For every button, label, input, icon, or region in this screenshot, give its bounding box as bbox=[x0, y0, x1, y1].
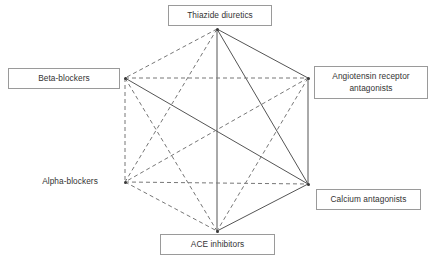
edge-layer bbox=[0, 0, 432, 261]
node-label-beta: Beta-blockers bbox=[8, 68, 120, 89]
node-label-alpha: Alpha-blockers bbox=[30, 174, 110, 190]
node-label-thiazide: Thiazide diuretics bbox=[168, 5, 272, 26]
edge-alpha-to-ace bbox=[125, 182, 217, 231]
edge-thiazide-to-beta bbox=[125, 29, 217, 78]
node-label-arb: Angiotensin receptor antagonists bbox=[314, 66, 428, 99]
vertex-dot-arb bbox=[307, 77, 310, 80]
vertex-dot-ace bbox=[216, 230, 219, 233]
node-label-text-arb: Angiotensin receptor antagonists bbox=[332, 71, 409, 94]
node-label-text-alpha: Alpha-blockers bbox=[42, 176, 98, 188]
vertex-dot-thiazide bbox=[216, 28, 219, 31]
node-label-calcium: Calcium antagonists bbox=[316, 189, 421, 210]
vertex-dot-beta bbox=[124, 77, 127, 80]
vertex-dot-alpha bbox=[124, 181, 127, 184]
node-label-ace: ACE inhibitors bbox=[160, 234, 275, 255]
edge-thiazide-to-calcium bbox=[217, 29, 308, 184]
edge-beta-to-ace bbox=[125, 78, 217, 231]
edge-thiazide-to-alpha bbox=[125, 29, 217, 182]
vertex-dot-calcium bbox=[307, 183, 310, 186]
node-label-text-thiazide: Thiazide diuretics bbox=[187, 10, 253, 22]
node-label-text-beta: Beta-blockers bbox=[38, 73, 90, 85]
node-label-text-calcium: Calcium antagonists bbox=[331, 194, 407, 206]
node-label-text-ace: ACE inhibitors bbox=[191, 239, 244, 251]
network-diagram: Thiazide diureticsBeta-blockersAngiotens… bbox=[0, 0, 432, 261]
edge-thiazide-to-arb bbox=[217, 29, 308, 78]
